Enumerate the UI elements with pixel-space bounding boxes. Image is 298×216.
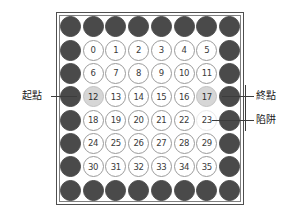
- board-cell-wall[interactable]: [196, 16, 217, 37]
- board-cell-wall[interactable]: [219, 40, 240, 61]
- board-cell-22[interactable]: 22: [174, 110, 195, 131]
- board-cell-wall[interactable]: [105, 16, 126, 37]
- board-cell-wall[interactable]: [128, 16, 149, 37]
- board-cell-27[interactable]: 27: [151, 133, 172, 154]
- board-cell-wall[interactable]: [60, 180, 81, 201]
- diagram-canvas: 0123456789101112131415161718192021222324…: [0, 0, 298, 216]
- grid-board: 0123456789101112131415161718192021222324…: [59, 15, 241, 202]
- board-cell-5[interactable]: 5: [196, 40, 217, 61]
- board-cell-wall[interactable]: [83, 180, 104, 201]
- leader-line-trap: [212, 120, 254, 121]
- board-cell-12[interactable]: 12: [83, 86, 104, 107]
- board-cell-wall[interactable]: [174, 16, 195, 37]
- board-cell-wall[interactable]: [60, 40, 81, 61]
- board-cell-2[interactable]: 2: [128, 40, 149, 61]
- board-cell-wall[interactable]: [219, 16, 240, 37]
- board-cell-wall[interactable]: [60, 156, 81, 177]
- leader-line-vertical-right: [245, 85, 246, 131]
- board-cell-25[interactable]: 25: [105, 133, 126, 154]
- board-cell-32[interactable]: 32: [128, 156, 149, 177]
- board-cell-13[interactable]: 13: [105, 86, 126, 107]
- board-cell-1[interactable]: 1: [105, 40, 126, 61]
- board-cell-30[interactable]: 30: [83, 156, 104, 177]
- board-cell-wall[interactable]: [219, 180, 240, 201]
- board-cell-34[interactable]: 34: [174, 156, 195, 177]
- board-cell-wall[interactable]: [60, 133, 81, 154]
- board-cell-21[interactable]: 21: [151, 110, 172, 131]
- board-cell-33[interactable]: 33: [151, 156, 172, 177]
- board-cell-28[interactable]: 28: [174, 133, 195, 154]
- board-cell-14[interactable]: 14: [128, 86, 149, 107]
- board-cell-wall[interactable]: [219, 63, 240, 84]
- annotation-label-end: 終點: [256, 91, 276, 101]
- board-cell-wall[interactable]: [151, 180, 172, 201]
- board-cell-0[interactable]: 0: [83, 40, 104, 61]
- board-cell-18[interactable]: 18: [83, 110, 104, 131]
- board-cell-19[interactable]: 19: [105, 110, 126, 131]
- board-cell-wall[interactable]: [105, 180, 126, 201]
- board-cell-wall[interactable]: [151, 16, 172, 37]
- board-cell-17[interactable]: 17: [196, 86, 217, 107]
- board-cell-24[interactable]: 24: [83, 133, 104, 154]
- board-cell-7[interactable]: 7: [105, 63, 126, 84]
- board-cell-6[interactable]: 6: [83, 63, 104, 84]
- board-cell-31[interactable]: 31: [105, 156, 126, 177]
- board-cell-9[interactable]: 9: [151, 63, 172, 84]
- board-cell-wall[interactable]: [60, 16, 81, 37]
- board-cell-8[interactable]: 8: [128, 63, 149, 84]
- board-cell-wall[interactable]: [219, 133, 240, 154]
- board-cell-4[interactable]: 4: [174, 40, 195, 61]
- board-cell-wall[interactable]: [219, 156, 240, 177]
- board-cell-35[interactable]: 35: [196, 156, 217, 177]
- board-cell-wall[interactable]: [60, 110, 81, 131]
- board-cell-3[interactable]: 3: [151, 40, 172, 61]
- board-cell-15[interactable]: 15: [151, 86, 172, 107]
- leader-line-start: [51, 96, 77, 97]
- board-cell-wall[interactable]: [174, 180, 195, 201]
- annotation-label-trap: 陷阱: [256, 115, 276, 125]
- board-cell-26[interactable]: 26: [128, 133, 149, 154]
- annotation-label-start: 起點: [22, 91, 42, 101]
- board-cell-wall[interactable]: [60, 63, 81, 84]
- board-cell-11[interactable]: 11: [196, 63, 217, 84]
- board-cell-20[interactable]: 20: [128, 110, 149, 131]
- board-cell-16[interactable]: 16: [174, 86, 195, 107]
- board-cell-10[interactable]: 10: [174, 63, 195, 84]
- board-cell-wall[interactable]: [83, 16, 104, 37]
- board-cell-29[interactable]: 29: [196, 133, 217, 154]
- board-cell-wall[interactable]: [196, 180, 217, 201]
- board-cell-wall[interactable]: [128, 180, 149, 201]
- leader-line-end: [222, 96, 254, 97]
